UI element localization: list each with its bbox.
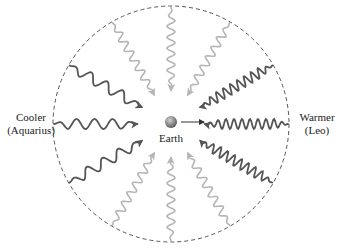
wavy-arrow-icon bbox=[188, 153, 230, 225]
wavy-arrow-icon bbox=[54, 119, 137, 129]
cmb-dipole-diagram: Earth Cooler (Aquarius) Warmer (Leo) bbox=[0, 0, 342, 251]
wavy-arrow-icon bbox=[113, 153, 155, 225]
wavy-arrow-icon bbox=[167, 7, 175, 90]
wavy-arrow-icon bbox=[113, 23, 155, 95]
earth-icon bbox=[165, 116, 177, 128]
wavy-arrow-icon bbox=[200, 141, 272, 183]
wavy-arrow-icon bbox=[70, 66, 142, 108]
earth-label: Earth bbox=[159, 132, 183, 144]
wavy-arrow-icon bbox=[70, 141, 142, 183]
cooler-label: Cooler bbox=[16, 111, 46, 123]
wavy-arrow-icon bbox=[200, 66, 272, 108]
aquarius-label: (Aquarius) bbox=[7, 124, 55, 137]
leo-label: (Leo) bbox=[305, 124, 330, 137]
wavy-arrow-icon bbox=[205, 119, 288, 129]
warmer-label: Warmer bbox=[299, 111, 334, 123]
wavy-arrow-icon bbox=[188, 23, 230, 95]
wavy-arrow-icon bbox=[167, 158, 175, 241]
